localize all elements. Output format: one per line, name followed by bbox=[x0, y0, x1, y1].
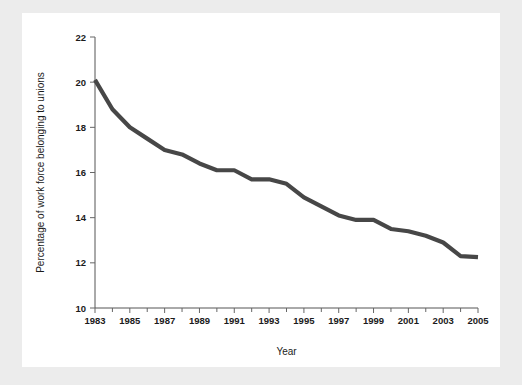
y-tick-group: 10121416182022 bbox=[75, 32, 95, 314]
x-tick-label: 1997 bbox=[328, 315, 349, 326]
x-tick-label: 1993 bbox=[259, 315, 280, 326]
x-tick-label: 2003 bbox=[433, 315, 454, 326]
y-tick-label: 10 bbox=[75, 303, 86, 314]
line-chart: 10121416182022 1983198519871989199119931… bbox=[22, 13, 500, 367]
y-tick-label: 22 bbox=[75, 32, 86, 43]
chart-canvas: 10121416182022 1983198519871989199119931… bbox=[22, 13, 500, 367]
y-tick-label: 20 bbox=[75, 77, 86, 88]
x-tick-label: 2001 bbox=[398, 315, 420, 326]
x-tick-label: 1989 bbox=[189, 315, 210, 326]
y-axis: 10121416182022 bbox=[75, 32, 95, 314]
x-tick-label: 1983 bbox=[84, 315, 105, 326]
x-tick-label: 1999 bbox=[363, 315, 384, 326]
x-tick-label: 1991 bbox=[224, 315, 246, 326]
x-tick-label: 1985 bbox=[119, 315, 141, 326]
y-tick-label: 18 bbox=[75, 122, 86, 133]
data-series-line bbox=[95, 80, 478, 257]
x-tick-group: 1983198519871989199119931995199719992001… bbox=[84, 308, 489, 326]
x-tick-label: 2005 bbox=[467, 315, 489, 326]
x-tick-label: 1995 bbox=[293, 315, 315, 326]
x-axis: 1983198519871989199119931995199719992001… bbox=[84, 308, 489, 326]
y-axis-title: Percentage of work force belonging to un… bbox=[35, 72, 46, 273]
x-tick-label: 1987 bbox=[154, 315, 175, 326]
y-tick-label: 12 bbox=[75, 257, 86, 268]
plot-area bbox=[95, 80, 478, 257]
y-tick-label: 14 bbox=[75, 212, 86, 223]
x-axis-title: Year bbox=[276, 346, 297, 357]
y-tick-label: 16 bbox=[75, 167, 86, 178]
figure-card: 10121416182022 1983198519871989199119931… bbox=[22, 13, 500, 367]
